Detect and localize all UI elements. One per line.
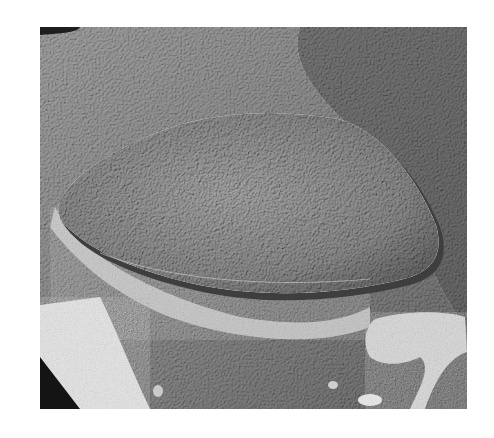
micrograph-svg (40, 27, 467, 409)
speck (358, 394, 382, 406)
speck (153, 385, 163, 397)
speck (328, 381, 338, 389)
micrograph-image (40, 27, 467, 409)
